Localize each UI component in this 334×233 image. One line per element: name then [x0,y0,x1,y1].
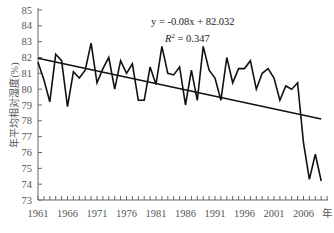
y-tick-label: 80 [22,84,33,95]
y-tick-label: 78 [22,115,33,126]
y-tick-label: 75 [22,163,33,174]
data-series-line [38,43,321,181]
y-tick-label: 77 [22,131,33,142]
regression-equation: y = -0.08x + 82.032 [151,16,235,27]
y-tick-label: 79 [22,100,33,111]
y-tick-label: 84 [22,20,33,31]
y-axis-title: 年平均相对湿度(%) [8,63,21,148]
x-tick-label: 1976 [116,208,137,219]
y-tick-label: 85 [22,5,33,16]
x-tick-label: 2001 [264,208,285,219]
line-chart: 73747576777879808182838485 1961196619711… [0,0,334,233]
y-axis: 73747576777879808182838485 [22,5,43,206]
y-tick-label: 83 [22,36,33,47]
x-tick-label: 1986 [175,208,196,219]
x-tick-label: 1991 [205,208,226,219]
x-tick-label: 1966 [57,208,78,219]
r-squared-label: R2 = 0.347 [164,32,210,44]
y-tick-label: 74 [22,179,33,190]
x-tick-label: 1971 [87,208,108,219]
x-tick-label: 2006 [293,208,314,219]
y-tick-label: 76 [22,147,33,158]
y-tick-label: 82 [22,52,33,63]
x-axis: 1961196619711976198119861991199620012006 [28,196,329,219]
x-axis-title: 年 [322,207,332,219]
x-tick-label: 1961 [28,208,49,219]
x-tick-label: 1996 [234,208,255,219]
x-tick-label: 1981 [146,208,167,219]
y-tick-label: 73 [22,195,33,206]
y-tick-label: 81 [22,68,33,79]
